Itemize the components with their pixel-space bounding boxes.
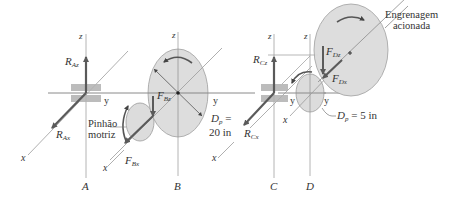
gear-B-diameter-value: 20 in xyxy=(209,127,231,138)
label-FBz: FBz xyxy=(157,90,171,103)
axis-y-A: y xyxy=(104,96,109,106)
axis-x-C: x xyxy=(212,153,216,163)
support-label-D: D xyxy=(306,181,314,192)
gear-B-center xyxy=(176,91,180,95)
gear-D-diameter-label: Dp = 5 in xyxy=(337,110,377,123)
axis-y-B: y xyxy=(213,96,218,106)
label-RAz: RAz xyxy=(65,56,79,69)
label-FDz: FDz xyxy=(326,46,341,59)
label-RCx: RCx xyxy=(244,128,259,141)
label-FBx: FBx xyxy=(125,155,139,168)
axis-y-C: y xyxy=(290,96,295,106)
axis-y-D: y xyxy=(324,96,329,106)
axis-x-A: x xyxy=(21,153,25,163)
gear-D-leader xyxy=(322,108,336,116)
label-FDx: FDx xyxy=(332,73,347,86)
support-label-C: C xyxy=(270,181,277,192)
label-RAx: RAx xyxy=(56,129,70,142)
x-axis-C xyxy=(218,142,234,158)
x-axis-pinion xyxy=(108,150,124,166)
axis-z-D: z xyxy=(304,32,308,41)
label-RCz: RCz xyxy=(253,54,267,67)
support-label-A: A xyxy=(82,181,89,192)
axis-z-A: z xyxy=(79,32,83,41)
driven-gear-note: Engrenagem acionada xyxy=(385,9,438,31)
driven-gear-note-line1: Engrenagem xyxy=(385,9,438,20)
pinion-note-line1: Pinhão xyxy=(88,118,117,129)
pinion-note: Pinhão motriz xyxy=(88,118,117,140)
axis-x-D: x xyxy=(283,115,287,125)
support-label-B: B xyxy=(174,181,181,192)
shaft-force-diagram: z z z z y y y y x x x x A B C D RAz RAx … xyxy=(0,0,453,202)
bearing-A-bottom xyxy=(71,95,101,102)
axis-x-B: x xyxy=(103,163,107,173)
gear-B-diameter-label: Dp = xyxy=(211,113,231,126)
force-RAx-arrow xyxy=(52,93,86,128)
pinion-note-line2: motriz xyxy=(88,129,117,140)
axis-z-B: z xyxy=(172,31,176,40)
axis-z-C: z xyxy=(268,32,272,41)
driven-gear-note-line2: acionada xyxy=(385,20,438,31)
